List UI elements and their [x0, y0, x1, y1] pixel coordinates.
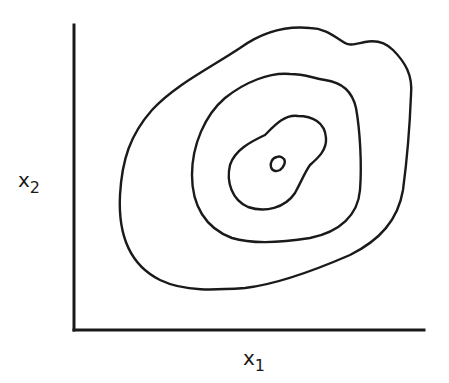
y-axis-label: x2 [18, 170, 40, 196]
contour-third [229, 116, 326, 210]
contour-plot [0, 0, 449, 383]
contour-outer [120, 28, 412, 290]
x-axis-label: x1 [243, 348, 265, 374]
contour-inner [271, 157, 285, 171]
